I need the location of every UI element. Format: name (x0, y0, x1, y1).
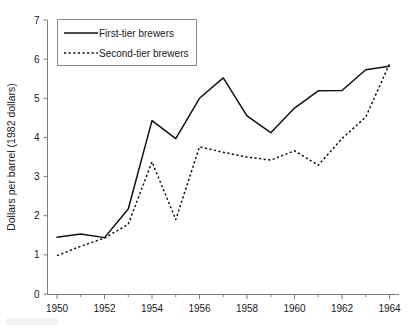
y-axis-title: Dollars per barrel (1982 dollars) (5, 83, 17, 231)
y-axis: 01234567 (34, 15, 48, 300)
y-tick-label: 6 (34, 54, 40, 65)
x-tick-label: 1952 (93, 303, 116, 314)
chart-legend: First-tier brewers Second-tier brewers (58, 20, 197, 66)
y-axis-tick-labels: 01234567 (34, 15, 40, 300)
x-tick-label: 1950 (46, 303, 69, 314)
legend-label-second-tier: Second-tier brewers (99, 48, 188, 59)
chart-figure: 01234567 1950195219541956195819601962196… (0, 0, 420, 331)
x-tick-label: 1960 (283, 303, 306, 314)
y-tick-label: 0 (34, 289, 40, 300)
x-tick-label: 1958 (236, 303, 259, 314)
x-tick-label: 1956 (188, 303, 211, 314)
y-tick-label: 5 (34, 93, 40, 104)
x-tick-label: 1962 (331, 303, 354, 314)
y-tick-label: 3 (34, 171, 40, 182)
series-second-tier-brewers (57, 64, 390, 256)
y-tick-label: 7 (34, 15, 40, 26)
legend-box (58, 20, 197, 66)
line-chart: 01234567 1950195219541956195819601962196… (0, 0, 420, 331)
x-axis-tick-labels: 19501952195419561958196019621964 (46, 303, 401, 314)
x-tick-label: 1954 (141, 303, 164, 314)
x-tick-label: 1964 (378, 303, 401, 314)
x-axis: 19501952195419561958196019621964 (46, 294, 401, 314)
data-series-layer (57, 64, 390, 256)
y-axis-ticks (44, 20, 48, 294)
page-artifact (6, 318, 58, 325)
y-tick-label: 4 (34, 132, 40, 143)
y-tick-label: 1 (34, 249, 40, 260)
legend-label-first-tier: First-tier brewers (99, 28, 174, 39)
y-tick-label: 2 (34, 210, 40, 221)
